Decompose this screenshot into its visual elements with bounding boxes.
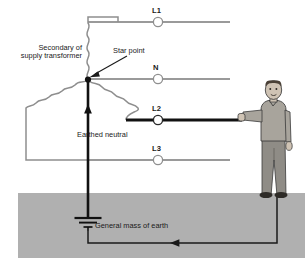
label-star-point: Star point bbox=[113, 47, 145, 55]
label-conductor-L1: L1 bbox=[152, 7, 161, 16]
terminal-N bbox=[153, 74, 162, 83]
label-conductor-L3: L3 bbox=[152, 145, 161, 154]
label-earthed-neutral: Earthed neutral bbox=[77, 131, 128, 139]
star-point-node bbox=[85, 76, 91, 82]
label-general-mass-of-earth: General mass of earth bbox=[95, 222, 168, 230]
person-eye-right bbox=[275, 88, 277, 90]
winding-L2 bbox=[89, 81, 138, 120]
star-point-leader bbox=[90, 56, 128, 77]
terminal-L2 bbox=[153, 115, 162, 124]
conductor-L2-live bbox=[126, 115, 242, 124]
person-figure bbox=[238, 80, 292, 198]
terminal-L1 bbox=[153, 17, 162, 26]
terminal-L3 bbox=[153, 155, 162, 164]
person-shirt bbox=[261, 100, 287, 141]
neutral-current-arrow bbox=[84, 104, 92, 114]
person-hand-right bbox=[286, 142, 292, 151]
person-hand-contact bbox=[238, 114, 245, 122]
person-shoe-right bbox=[275, 192, 288, 198]
winding-L3 bbox=[26, 80, 88, 160]
diagram-svg bbox=[0, 0, 305, 258]
conductor-L3 bbox=[88, 155, 230, 164]
person-eye-left bbox=[269, 88, 271, 90]
conductor-N bbox=[88, 74, 230, 83]
label-conductor-L2: L2 bbox=[152, 105, 161, 114]
conductor-L1 bbox=[88, 17, 230, 26]
label-secondary-transformer: Secondary of supply transformer bbox=[6, 44, 82, 61]
diagram-canvas: Secondary of supply transformer Star poi… bbox=[0, 0, 305, 258]
person-arm-extended bbox=[243, 110, 262, 122]
label-conductor-N: N bbox=[153, 64, 158, 73]
person-arm-right bbox=[285, 110, 291, 142]
label-secondary-line2: supply transformer bbox=[21, 51, 82, 60]
person-shoe-left bbox=[260, 192, 273, 198]
